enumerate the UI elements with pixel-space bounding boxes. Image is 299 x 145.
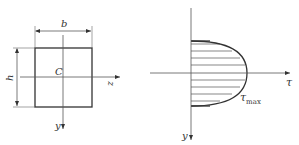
cross-section-rect	[35, 48, 92, 107]
diagram-canvas: b h C z y τ y	[0, 0, 299, 145]
width-label: b	[61, 18, 67, 29]
tau-max-label: τmax	[240, 91, 261, 106]
height-label: h	[4, 75, 15, 81]
tau-max-subscript: max	[246, 98, 261, 106]
centroid-label: C	[55, 66, 63, 77]
y-axis-label-right: y	[181, 130, 188, 141]
y-axis-label-left: y	[54, 120, 61, 131]
hatch-lines	[191, 44, 245, 101]
z-axis-label: z	[105, 81, 115, 87]
cross-section-figure: b h C z y	[4, 18, 120, 131]
stress-distribution-figure: τ y τmax	[150, 8, 293, 141]
tau-axis-label: τ	[286, 76, 293, 89]
